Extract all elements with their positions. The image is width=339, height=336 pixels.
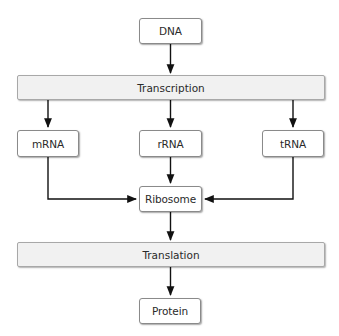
central-dogma-diagram: DNA Transcription mRNA rRNA tRNA Ribosom… (0, 0, 339, 336)
node-mrna: mRNA (17, 130, 79, 157)
process-transcription: Transcription (17, 75, 325, 100)
node-rrna: rRNA (139, 130, 202, 157)
node-ribosome: Ribosome (139, 186, 202, 212)
node-protein: Protein (139, 298, 201, 324)
node-mrna-label: mRNA (32, 138, 64, 150)
node-ribosome-label: Ribosome (145, 193, 196, 205)
process-transcription-label: Transcription (137, 82, 205, 94)
process-translation: Translation (17, 242, 325, 267)
node-trna-label: tRNA (280, 138, 306, 150)
arrow-mrna-to-ribosome (48, 157, 136, 199)
node-dna-label: DNA (159, 25, 182, 37)
node-dna: DNA (139, 18, 202, 44)
node-rrna-label: rRNA (157, 138, 183, 150)
arrow-trna-to-ribosome (205, 157, 293, 199)
node-trna: tRNA (262, 130, 324, 157)
node-protein-label: Protein (152, 305, 188, 317)
process-translation-label: Translation (142, 249, 199, 261)
arrow-connectors (0, 0, 339, 336)
